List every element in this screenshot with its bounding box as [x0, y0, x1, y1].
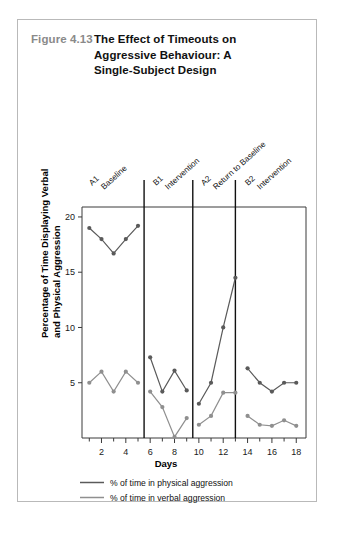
x-tick-label: 2 [99, 447, 104, 457]
y-tick-label: 5 [70, 378, 75, 388]
data-point [197, 402, 201, 406]
chart-container: A1BaselineB1InterventionA2Return to Base… [18, 20, 318, 503]
series-line [89, 372, 138, 392]
x-tick-label: 12 [218, 447, 228, 457]
x-tick-label: 4 [123, 447, 128, 457]
series-line [199, 393, 236, 425]
series-line [150, 392, 187, 437]
data-point [294, 381, 298, 385]
phase-label-group: A1BaselineB1InterventionA2Return to Base… [87, 139, 293, 191]
phase-name-label: Intervention [163, 156, 201, 192]
data-point [185, 388, 189, 392]
x-tick-label: 8 [172, 447, 177, 457]
x-tick-label: 6 [148, 447, 153, 457]
axes-group [78, 207, 306, 443]
plot-frame [82, 207, 306, 438]
data-point [258, 423, 262, 427]
series-line [199, 278, 236, 404]
data-point [160, 389, 164, 393]
data-point [99, 370, 103, 374]
data-point [160, 405, 164, 409]
data-point [209, 381, 213, 385]
y-tick-label: 15 [65, 267, 75, 277]
data-point [282, 381, 286, 385]
data-point [124, 370, 128, 374]
data-point [221, 391, 225, 395]
series-line [89, 226, 138, 254]
data-point [270, 424, 274, 428]
data-point [87, 226, 91, 230]
data-point [197, 423, 201, 427]
y-axis-title-line-1: Percentage of Time Displaying Verbal [39, 169, 50, 338]
x-tick-label: 16 [267, 447, 277, 457]
data-point [136, 381, 140, 385]
data-point [172, 435, 176, 439]
data-point [233, 276, 237, 280]
line-chart: A1BaselineB1InterventionA2Return to Base… [18, 20, 318, 503]
data-point [87, 381, 91, 385]
y-axis-title-line-2: and Physical Aggression [51, 225, 62, 338]
phase-name-label: Intervention [255, 156, 293, 192]
legend: % of time in physical aggression% of tim… [80, 478, 233, 503]
x-tick-label: 10 [194, 447, 204, 457]
data-point [112, 389, 116, 393]
data-point [258, 381, 262, 385]
data-point [294, 424, 298, 428]
data-point [245, 366, 249, 370]
data-point [136, 224, 140, 228]
y-tick-label: 10 [65, 323, 75, 333]
tick-label-group: 510152024681012141618 [65, 212, 301, 457]
legend-label: % of time in verbal aggression [110, 493, 225, 503]
data-point [245, 414, 249, 418]
data-point [124, 237, 128, 241]
x-tick-label: 14 [243, 447, 253, 457]
figure-card: Figure 4.13 The Effect of Timeouts on Ag… [17, 19, 317, 502]
data-point [99, 237, 103, 241]
series-line [248, 368, 297, 391]
data-point [233, 391, 237, 395]
data-point [209, 414, 213, 418]
data-point [148, 355, 152, 359]
series-line [150, 357, 187, 391]
data-point [221, 325, 225, 329]
data-point [282, 418, 286, 422]
data-point [270, 389, 274, 393]
data-point [185, 416, 189, 420]
data-point [148, 389, 152, 393]
data-point [112, 251, 116, 255]
y-axis-title: Percentage of Time Displaying Verbal and… [39, 169, 62, 338]
data-point [172, 368, 176, 372]
phase-name-label: Baseline [99, 163, 129, 191]
legend-label: % of time in physical aggression [110, 478, 233, 488]
x-axis-title: Days [155, 458, 178, 469]
y-tick-label: 20 [65, 212, 75, 222]
x-tick-label: 18 [291, 447, 301, 457]
phase-divider-group [144, 180, 235, 438]
